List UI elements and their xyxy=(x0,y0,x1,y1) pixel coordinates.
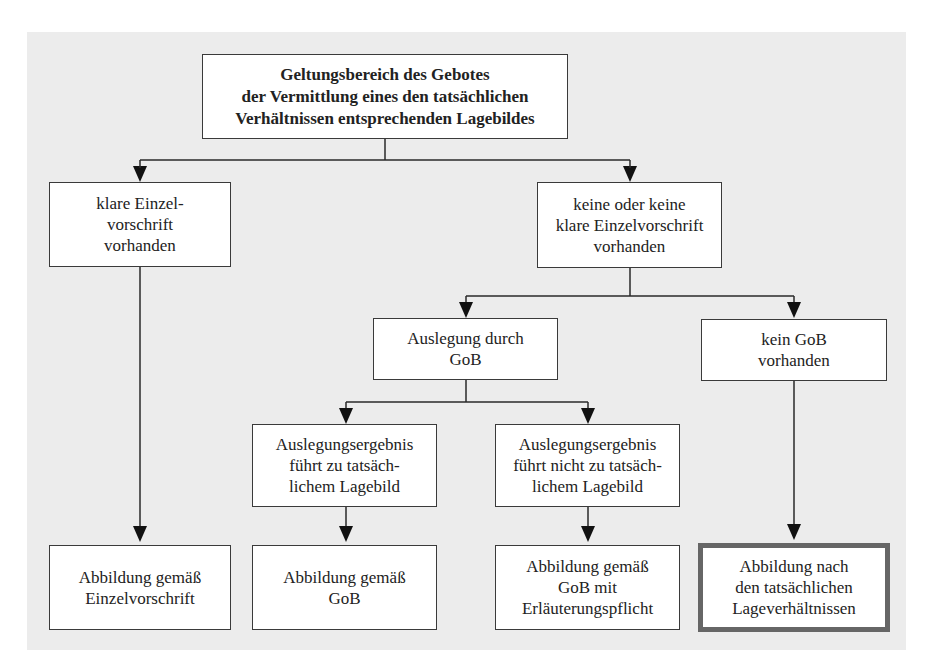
node-outcome-gob-explanation: Abbildung gemäß GoB mit Erläuterungspfli… xyxy=(495,545,680,630)
node-outcome-single-rule: Abbildung gemäß Einzelvorschrift xyxy=(49,545,231,630)
node-outcome-actual-highlighted: Abbildung nach den tatsächlichen Lagever… xyxy=(698,543,890,632)
node-clear-rule: klare Einzel- vorschrift vorhanden xyxy=(49,182,231,267)
node-no-gob: kein GoB vorhanden xyxy=(701,319,887,381)
node-outcome-gob: Abbildung gemäß GoB xyxy=(252,545,437,630)
node-root: Geltungsbereich des Gebotes der Vermittl… xyxy=(202,54,568,139)
node-interpretation-gob: Auslegung durch GoB xyxy=(373,318,558,380)
node-result-true-picture: Auslegungsergebnis führt zu tatsäch- lic… xyxy=(252,424,437,507)
node-result-not-true-picture: Auslegungsergebnis führt nicht zu tatsäc… xyxy=(495,424,680,507)
node-no-clear-rule: keine oder keine klare Einzelvorschrift … xyxy=(537,182,722,268)
